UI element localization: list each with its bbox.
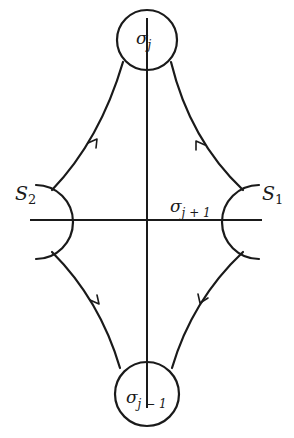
label-sigma-j: σj [136,28,152,52]
edge-s2-to-sigma-j [52,62,123,190]
label-s2: S2 [15,182,36,207]
edge-s2-to-sigma-j-minus-1 [52,252,120,368]
label-s1: S1 [262,182,283,207]
edge-s1-to-sigma-j [171,62,243,190]
diagram-canvas: σj σj − 1 σj + 1 S2 S1 [0,0,294,438]
edge-s1-to-sigma-j-minus-1 [172,252,243,368]
arc-s1 [222,185,259,259]
label-sigma-j-plus-1: σj + 1 [170,196,211,220]
arc-s2 [36,185,73,259]
